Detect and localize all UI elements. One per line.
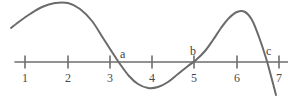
point-label-c: c: [266, 45, 271, 57]
tick-label-5: 5: [186, 72, 202, 84]
point-label-b: b: [190, 45, 196, 57]
point-label-a: a: [120, 48, 125, 60]
tick-label-1: 1: [17, 72, 33, 84]
tick-label-4: 4: [144, 72, 160, 84]
function-graph-figure: 1234567 abc: [0, 0, 288, 98]
tick-label-3: 3: [102, 72, 118, 84]
tick-label-2: 2: [60, 72, 76, 84]
axis-group: [15, 56, 288, 68]
tick-label-6: 6: [229, 72, 245, 84]
tick-label-7: 7: [271, 72, 287, 84]
